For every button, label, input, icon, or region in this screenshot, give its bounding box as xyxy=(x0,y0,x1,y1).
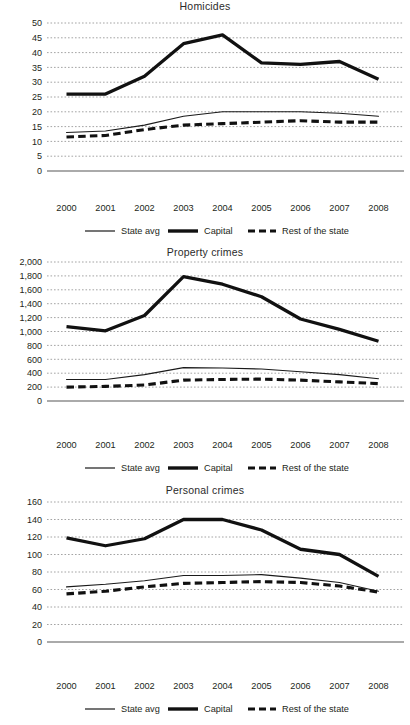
x-axis-tick-label: 2001 xyxy=(95,440,115,450)
x-axis-tick-label: 2003 xyxy=(173,440,193,450)
x-axis-tick-label: 2001 xyxy=(95,681,115,691)
x-axis-tick-label: 2007 xyxy=(329,681,349,691)
y-axis-tick-label: 50 xyxy=(32,18,42,28)
series-line-capital xyxy=(67,35,379,94)
x-axis-tick-label: 2004 xyxy=(212,681,232,691)
y-axis-tick-label: 20 xyxy=(32,107,42,117)
x-axis-tick-label: 2008 xyxy=(368,440,388,450)
series-line-rest-of-state xyxy=(67,121,379,137)
x-axis-tick-label: 2003 xyxy=(173,681,193,691)
y-axis-tick-label: 40 xyxy=(32,48,42,58)
y-axis-tick-label: 1,600 xyxy=(19,285,42,295)
legend-label-rest-of-the-state: Rest of the state xyxy=(282,704,349,714)
y-axis-tick-label: 40 xyxy=(32,602,42,612)
x-axis-tick-label: 2006 xyxy=(290,681,310,691)
x-axis-tick-label: 2007 xyxy=(329,440,349,450)
y-axis-tick-label: 1,200 xyxy=(19,313,42,323)
y-axis-tick-label: 1,400 xyxy=(19,299,42,309)
legend-label-state-avg: State avg xyxy=(121,704,160,714)
y-axis-tick-label: 0 xyxy=(37,396,42,406)
x-axis-tick-label: 2008 xyxy=(368,203,388,213)
x-axis-tick-label: 2006 xyxy=(290,440,310,450)
y-axis-tick-label: 1,800 xyxy=(19,271,42,281)
legend-label-state-avg: State avg xyxy=(121,226,160,236)
legend-label-capital: Capital xyxy=(204,226,233,236)
x-axis-tick-label: 2000 xyxy=(56,203,76,213)
y-axis-tick-label: 15 xyxy=(32,122,42,132)
plot-area-property-crimes: 02004006008001,0001,2001,4001,6001,8002,… xyxy=(0,246,410,484)
y-axis-tick-label: 20 xyxy=(32,620,42,630)
y-axis-tick-label: 160 xyxy=(27,497,42,507)
y-axis-tick-label: 60 xyxy=(32,585,42,595)
legend-label-capital: Capital xyxy=(204,704,233,714)
plot-area-homicides: 0510152025303540455020002001200220032004… xyxy=(0,0,410,248)
crime-statistics-figure: Homicides 051015202530354045502000200120… xyxy=(0,0,410,725)
y-axis-tick-label: 2,000 xyxy=(19,257,42,267)
x-axis-tick-label: 2001 xyxy=(95,203,115,213)
x-axis-tick-label: 2005 xyxy=(251,681,271,691)
plot-area-personal-crimes: 0204060801001201401602000200120022003200… xyxy=(0,484,410,725)
y-axis-tick-label: 140 xyxy=(27,515,42,525)
y-axis-tick-label: 5 xyxy=(37,151,42,161)
line-chart-homicides: 0510152025303540455020002001200220032004… xyxy=(0,0,410,248)
y-axis-tick-label: 0 xyxy=(37,637,42,647)
line-chart-personal-crimes: 0204060801001201401602000200120022003200… xyxy=(0,484,410,725)
y-axis-tick-label: 600 xyxy=(27,355,42,365)
legend-label-rest-of-the-state: Rest of the state xyxy=(282,463,349,473)
x-axis-tick-label: 2005 xyxy=(251,440,271,450)
y-axis-tick-label: 35 xyxy=(32,63,42,73)
y-axis-tick-label: 25 xyxy=(32,92,42,102)
x-axis-tick-label: 2002 xyxy=(134,681,154,691)
x-axis-tick-label: 2008 xyxy=(368,681,388,691)
legend-label-rest-of-the-state: Rest of the state xyxy=(282,226,349,236)
x-axis-tick-label: 2005 xyxy=(251,203,271,213)
line-chart-property-crimes: 02004006008001,0001,2001,4001,6001,8002,… xyxy=(0,246,410,484)
y-axis-tick-label: 10 xyxy=(32,137,42,147)
x-axis-tick-label: 2003 xyxy=(173,203,193,213)
y-axis-tick-label: 45 xyxy=(32,33,42,43)
series-line-capital xyxy=(67,520,379,577)
series-line-rest-of-state xyxy=(67,379,379,387)
x-axis-tick-label: 2002 xyxy=(134,203,154,213)
x-axis-tick-label: 2000 xyxy=(56,440,76,450)
legend-label-state-avg: State avg xyxy=(121,463,160,473)
x-axis-tick-label: 2006 xyxy=(290,203,310,213)
y-axis-tick-label: 1,000 xyxy=(19,327,42,337)
legend-label-capital: Capital xyxy=(204,463,233,473)
y-axis-tick-label: 800 xyxy=(27,341,42,351)
x-axis-tick-label: 2004 xyxy=(212,440,232,450)
chart-panel-property-crimes: Property crimes 02004006008001,0001,2001… xyxy=(0,246,410,484)
chart-panel-personal-crimes: Personal crimes 020406080100120140160200… xyxy=(0,484,410,725)
chart-panel-homicides: Homicides 051015202530354045502000200120… xyxy=(0,0,410,248)
y-axis-tick-label: 100 xyxy=(27,550,42,560)
y-axis-tick-label: 400 xyxy=(27,368,42,378)
y-axis-tick-label: 120 xyxy=(27,532,42,542)
x-axis-tick-label: 2000 xyxy=(56,681,76,691)
x-axis-tick-label: 2004 xyxy=(212,203,232,213)
y-axis-tick-label: 200 xyxy=(27,382,42,392)
y-axis-tick-label: 80 xyxy=(32,567,42,577)
y-axis-tick-label: 30 xyxy=(32,77,42,87)
figure-caption xyxy=(20,717,22,724)
x-axis-tick-label: 2002 xyxy=(134,440,154,450)
x-axis-tick-label: 2007 xyxy=(329,203,349,213)
y-axis-tick-label: 0 xyxy=(37,166,42,176)
